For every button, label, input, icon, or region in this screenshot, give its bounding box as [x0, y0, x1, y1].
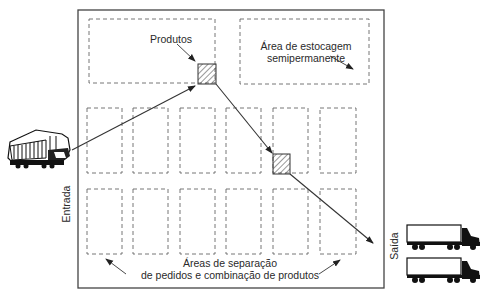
entry-flow-arrow: [72, 86, 195, 150]
products-label: Produtos: [150, 33, 192, 45]
storage-label-line-1: Área de estocagem: [250, 40, 362, 52]
picking-areas-row-1: [87, 108, 356, 173]
storage-label: Área de estocagem semipermanente: [250, 40, 362, 64]
product-storage-area: [89, 19, 215, 83]
product-marker-1: [198, 64, 216, 84]
truck-icon: [407, 225, 480, 250]
product-marker-2: [273, 154, 290, 174]
products-pointer-arrow: [177, 44, 195, 61]
transfer-flow-arrow: [216, 84, 272, 153]
exit-label: Saída: [388, 226, 400, 266]
picking-areas-label: Áreas de separação de pedidos e combinaç…: [120, 257, 340, 281]
entry-label: Entrada: [60, 174, 72, 234]
storage-label-line-2: semipermanente: [250, 52, 362, 64]
warehouse-diagram: [0, 0, 486, 300]
train-locomotive-icon: [8, 130, 70, 169]
picking-areas-row-2: [87, 189, 356, 254]
truck-icon: [407, 258, 480, 283]
picking-label-line-1: Áreas de separação: [120, 257, 340, 269]
exit-flow-arrow: [290, 174, 373, 243]
picking-label-line-2: de pedidos e combinação de produtos: [120, 269, 340, 281]
